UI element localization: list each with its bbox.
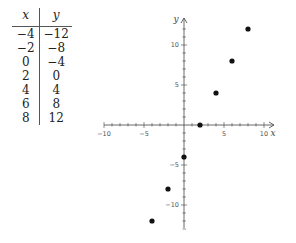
y-tick-label: −10: [165, 201, 179, 209]
y-tick-label: −5: [169, 161, 179, 169]
data-point: [149, 218, 154, 223]
data-point: [165, 186, 170, 191]
scatter-plot: −10−5510−10−5510xy: [0, 0, 296, 243]
data-point: [197, 122, 202, 127]
data-point: [245, 26, 250, 31]
y-tick-label: 10: [171, 41, 179, 49]
x-axis-label: x: [270, 128, 275, 138]
x-tick-label: −5: [139, 130, 149, 138]
axes: −10−5510−10−5510xy: [97, 14, 275, 229]
x-tick-label: 5: [222, 130, 226, 138]
x-tick-label: −10: [97, 130, 111, 138]
x-tick-label: 10: [260, 130, 268, 138]
data-point: [229, 58, 234, 63]
data-point: [181, 154, 186, 159]
y-tick-label: 5: [175, 81, 179, 89]
y-axis-label: y: [172, 14, 179, 24]
data-point: [213, 90, 218, 95]
